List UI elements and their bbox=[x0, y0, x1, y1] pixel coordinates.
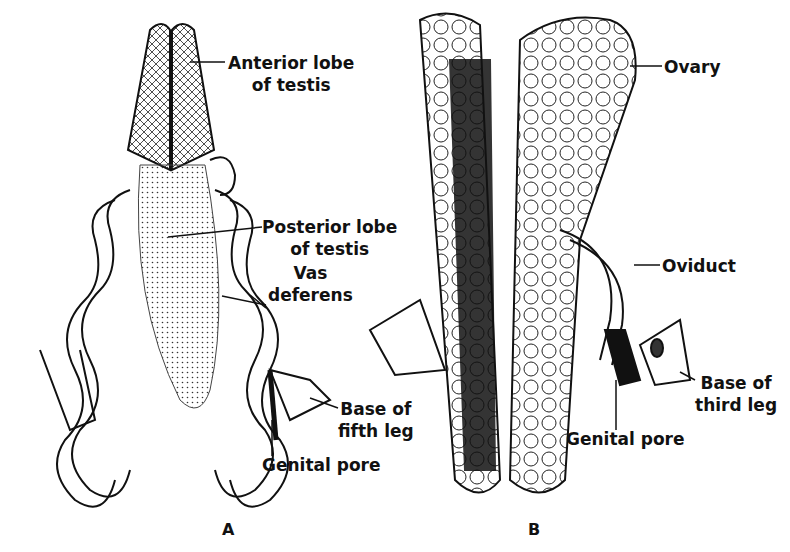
label-line: Posterior lobe bbox=[262, 216, 397, 238]
label-genital-pore-a: Genital pore bbox=[262, 454, 381, 476]
label-line: deferens bbox=[268, 284, 353, 306]
label-line: Base of bbox=[338, 398, 414, 420]
label-line: Anterior lobe bbox=[228, 52, 354, 74]
label-anterior-lobe-of-testis: Anterior lobe of testis bbox=[228, 52, 354, 96]
label-genital-pore-b: Genital pore bbox=[566, 428, 685, 450]
label-posterior-lobe-of-testis: Posterior lobe of testis bbox=[262, 216, 397, 260]
figure-letter-b: B bbox=[528, 520, 540, 539]
label-line: third leg bbox=[695, 394, 777, 416]
figure-letter-a: A bbox=[222, 520, 234, 539]
label-vas-deferens: Vas deferens bbox=[268, 262, 353, 306]
label-line: of testis bbox=[262, 238, 397, 260]
label-line: fifth leg bbox=[338, 420, 414, 442]
label-base-of-third-leg: Base of third leg bbox=[695, 372, 777, 416]
label-line: Base of bbox=[695, 372, 777, 394]
label-base-of-fifth-leg: Base of fifth leg bbox=[338, 398, 414, 442]
label-line: of testis bbox=[228, 74, 354, 96]
ovary-figure bbox=[370, 14, 690, 493]
label-ovary: Ovary bbox=[664, 56, 720, 78]
label-line: Vas bbox=[268, 262, 353, 284]
label-oviduct: Oviduct bbox=[662, 255, 736, 277]
